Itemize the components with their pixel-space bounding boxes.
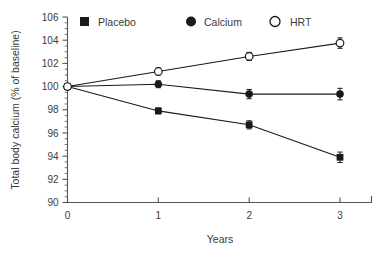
data-point-hrt <box>336 39 344 47</box>
chart-page: Placebo Calcium HRT 90929496981001021041… <box>0 0 384 255</box>
y-tick-label: 96 <box>47 128 59 139</box>
y-tick-label: 94 <box>47 151 59 162</box>
data-point-placebo <box>337 154 344 161</box>
y-tick-label: 100 <box>42 81 59 92</box>
x-tick-label: 2 <box>246 210 252 221</box>
x-tick-label: 3 <box>337 210 343 221</box>
data-point-placebo <box>155 108 162 115</box>
y-tick-label: 92 <box>47 174 59 185</box>
data-point-hrt <box>245 53 253 61</box>
y-axis-title: Total body calcium (% of baseline) <box>9 30 21 189</box>
x-tick-label: 1 <box>156 210 162 221</box>
open-circle-icon <box>270 17 280 27</box>
legend-label-hrt: HRT <box>290 16 312 28</box>
x-axis-title: Years <box>207 233 233 245</box>
legend-label-placebo: Placebo <box>98 16 136 28</box>
legend-item-hrt: HRT <box>270 16 312 28</box>
total-body-calcium-line-chart: Placebo Calcium HRT 90929496981001021041… <box>0 0 384 255</box>
filled-circle-icon <box>186 17 196 27</box>
y-tick-label: 90 <box>47 197 59 208</box>
data-point-hrt <box>64 83 72 91</box>
data-point-calcium <box>155 80 163 88</box>
x-tick-label: 0 <box>65 210 71 221</box>
legend-label-calcium: Calcium <box>204 16 242 28</box>
y-tick-label: 102 <box>42 58 59 69</box>
data-point-calcium <box>245 90 253 98</box>
filled-square-icon <box>80 17 89 26</box>
data-point-placebo <box>246 121 253 128</box>
y-tick-label: 104 <box>42 35 59 46</box>
data-point-calcium <box>336 90 344 98</box>
y-tick-label: 106 <box>42 12 59 23</box>
data-point-hrt <box>155 68 163 76</box>
y-tick-label: 98 <box>47 104 59 115</box>
